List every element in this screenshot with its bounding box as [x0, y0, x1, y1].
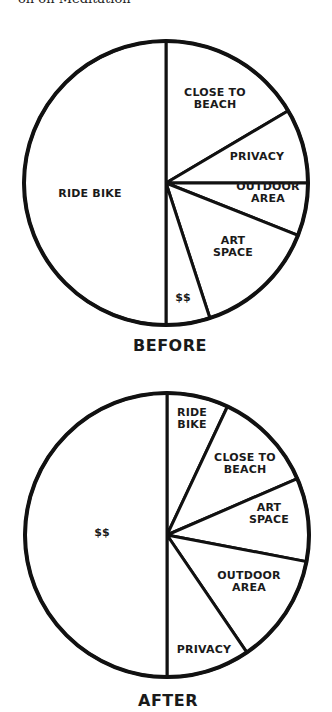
chart-title-before: BEFORE: [133, 336, 207, 355]
chart-title-after: AFTER: [138, 691, 198, 710]
pie-chart-before: CLOSE TOBEACHPRIVACYOUTDOORAREAARTSPACE$…: [24, 41, 308, 355]
slice-label-privacy: PRIVACY: [230, 150, 285, 163]
pie-charts-figure: CLOSE TOBEACHPRIVACYOUTDOORAREAARTSPACE$…: [0, 0, 332, 712]
slice-label-ride-bike: RIDEBIKE: [177, 406, 207, 431]
pie-chart-after: RIDEBIKECLOSE TOBEACHARTSPACEOUTDOORAREA…: [25, 393, 309, 710]
slice-label-ride-bike: RIDE BIKE: [58, 187, 121, 200]
slice-label-privacy: PRIVACY: [177, 643, 232, 656]
slice-label-money: $$: [94, 526, 110, 539]
slice-label-money: $$: [175, 291, 191, 304]
slice-ride-bike: [24, 41, 166, 325]
